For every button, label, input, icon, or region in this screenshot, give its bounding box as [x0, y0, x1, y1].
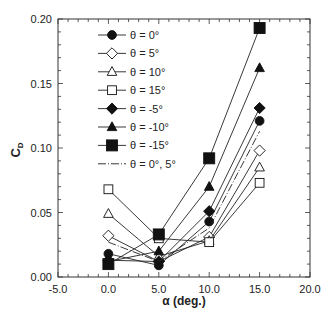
legend-item: θ = 0° — [98, 29, 159, 41]
legend-label: θ = -5° — [130, 103, 163, 115]
plot-frame — [58, 19, 310, 277]
legend-item: θ = 10° — [98, 66, 165, 78]
triangle-marker — [107, 67, 117, 76]
square-marker — [108, 86, 117, 95]
x-axis-label: α (deg.) — [162, 294, 205, 308]
data-series — [103, 23, 265, 270]
y-axis-label-sub: D — [16, 142, 25, 148]
y-tick-label: 0.20 — [31, 13, 52, 25]
diamond-marker — [254, 102, 265, 113]
x-tick-label: 0.0 — [101, 283, 116, 295]
diamond-marker — [254, 145, 265, 156]
x-tick-label: -5.0 — [49, 283, 68, 295]
legend-label: θ = 0° — [130, 29, 159, 41]
legend-label: θ = 15° — [130, 84, 165, 96]
y-tick-label: 0.00 — [31, 271, 52, 283]
legend-label: θ = -10° — [130, 121, 169, 133]
triangle-marker — [204, 182, 214, 191]
legend-item: θ = 15° — [98, 84, 165, 96]
series--10 — [104, 63, 265, 265]
triangle-marker — [255, 63, 265, 72]
diamond-marker — [103, 230, 114, 241]
square-marker — [103, 259, 114, 270]
diamond-marker — [106, 103, 117, 114]
square-marker — [205, 238, 214, 247]
plot-border — [58, 19, 310, 277]
x-tick-label: 20.0 — [299, 283, 320, 295]
legend-label: θ = 0°, 5° — [130, 158, 176, 170]
axis-ticks: -5.00.05.010.015.020.00.000.050.100.150.… — [31, 13, 321, 295]
drag-coefficient-chart: -5.00.05.010.015.020.00.000.050.100.150.… — [0, 0, 327, 320]
triangle-marker — [255, 162, 265, 171]
legend-label: θ = 10° — [130, 66, 165, 78]
legend-item: θ = 5° — [98, 47, 159, 59]
square-marker — [254, 23, 265, 34]
legend: θ = 0°θ = 5°θ = 10°θ = 15°θ = -5°θ = -10… — [98, 29, 176, 170]
y-tick-label: 0.10 — [31, 142, 52, 154]
square-marker — [153, 229, 164, 240]
series-0 — [104, 117, 264, 270]
legend-label: θ = 5° — [130, 47, 159, 59]
square-marker — [104, 185, 113, 194]
square-marker — [255, 178, 264, 187]
square-marker — [107, 140, 118, 151]
square-marker — [204, 153, 215, 164]
svg-text:CD: CD — [8, 142, 25, 157]
legend-item: θ = 0°, 5° — [98, 158, 176, 170]
legend-item: θ = -5° — [98, 103, 163, 115]
circle-marker — [108, 31, 117, 40]
x-tick-label: 15.0 — [249, 283, 270, 295]
triangle-marker — [107, 122, 117, 131]
legend-label: θ = -15° — [130, 139, 169, 151]
legend-item: θ = -10° — [98, 121, 169, 133]
y-axis-label: CD — [8, 142, 25, 157]
y-tick-label: 0.15 — [31, 78, 52, 90]
y-tick-label: 0.05 — [31, 207, 52, 219]
circle-marker — [255, 117, 264, 126]
legend-item: θ = -15° — [98, 139, 169, 151]
diamond-marker — [106, 48, 117, 59]
series--5 — [103, 102, 265, 267]
triangle-marker — [104, 209, 114, 218]
chart-canvas: -5.00.05.010.015.020.00.000.050.100.150.… — [0, 0, 327, 320]
